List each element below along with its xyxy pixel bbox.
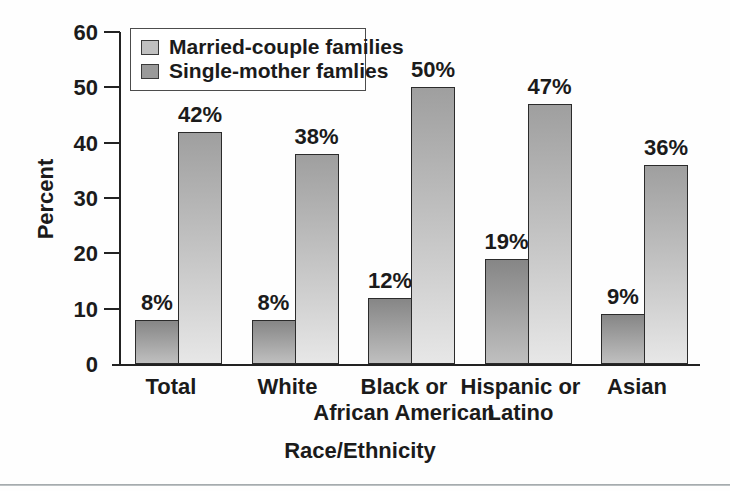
bar-series1-white [295,154,339,364]
y-tick-label-0: 0 [54,353,98,377]
category-label-asian: Asian [607,374,667,400]
y-tick-mark-40 [104,142,120,144]
y-tick-mark-10 [104,308,120,310]
value-label-series0-1: 8% [258,289,290,317]
value-label-series0-4: 9% [607,283,639,311]
legend-label-married: Married-couple families [169,35,404,59]
y-tick-mark-60 [104,31,120,33]
bar-series0-white [252,320,296,364]
value-label-series1-3: 47% [527,73,571,101]
y-tick-label-50: 50 [54,76,98,100]
y-tick-label-40: 40 [54,132,98,156]
y-tick-label-30: 30 [54,187,98,211]
value-label-series0-3: 19% [484,228,528,256]
category-label-white: White [258,374,318,400]
bar-series1-black-or-african-american [411,87,455,364]
y-tick-label-60: 60 [54,21,98,45]
legend-item-married: Married-couple families [141,35,365,59]
bottom-rule [0,484,730,486]
bar-series0-total [135,320,179,364]
bar-series1-total [178,132,222,364]
legend-box: Married-couple families Single-mother fa… [130,28,366,91]
x-axis-title: Race/Ethnicity [284,438,436,464]
y-tick-label-10: 10 [54,298,98,322]
value-label-series0-2: 12% [368,267,412,295]
legend-swatch-married [141,40,159,55]
bar-series0-black-or-african-american [368,298,412,364]
x-axis-line [112,364,700,366]
y-tick-mark-50 [104,86,120,88]
value-label-series1-2: 50% [411,56,455,84]
y-axis-line [119,32,121,366]
value-label-series0-0: 8% [141,289,173,317]
y-tick-label-20: 20 [54,242,98,266]
y-tick-mark-20 [104,252,120,254]
legend-swatch-single [141,64,159,79]
bar-series0-hispanic-or-latino [485,259,529,364]
bar-chart-figure: Percent 0102030405060 8%42%Total8%38%Whi… [0,0,730,491]
value-label-series1-4: 36% [644,134,688,162]
bar-series0-asian [601,314,645,364]
y-tick-mark-30 [104,197,120,199]
value-label-series1-0: 42% [178,101,222,129]
bar-series1-asian [644,165,688,364]
legend-item-single: Single-mother famlies [141,59,365,83]
bar-series1-hispanic-or-latino [528,104,572,364]
legend-label-single: Single-mother famlies [169,59,388,83]
category-label-hispanic-or-latino: Hispanic orLatino [461,374,581,426]
value-label-series1-1: 38% [294,123,338,151]
category-label-total: Total [146,374,197,400]
